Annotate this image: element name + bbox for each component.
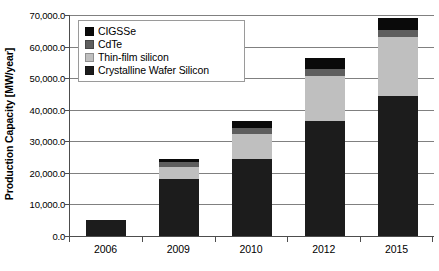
bar-group-2009[interactable] bbox=[159, 159, 199, 236]
x-axis-tick-label-2006: 2006 bbox=[75, 243, 135, 255]
bar-segment[interactable] bbox=[305, 58, 345, 70]
bar-segment[interactable] bbox=[305, 76, 345, 121]
legend-swatch-icon bbox=[85, 53, 94, 62]
legend-swatch-icon bbox=[85, 66, 94, 75]
bar-group-2010[interactable] bbox=[232, 121, 272, 236]
bar-group-2015[interactable] bbox=[378, 18, 418, 236]
x-axis-tick-label-2010: 2010 bbox=[221, 243, 281, 255]
bar-segment[interactable] bbox=[232, 121, 272, 128]
bar-segment[interactable] bbox=[232, 159, 272, 236]
y-axis-tick-labels: 0.010,000.020,000.030,000.040,000.050,00… bbox=[16, 0, 69, 248]
legend-item-label: Thin-film silicon bbox=[98, 51, 169, 64]
x-axis-tickmark bbox=[432, 237, 433, 242]
x-axis-tickmark bbox=[215, 237, 216, 242]
y-axis-tick-label: 40,000.0 bbox=[30, 104, 65, 115]
x-axis-tick-label-2012: 2012 bbox=[294, 243, 354, 255]
bar-segment[interactable] bbox=[86, 220, 126, 236]
legend-item[interactable]: CdTe bbox=[85, 38, 239, 51]
bar-segment[interactable] bbox=[378, 37, 418, 95]
x-axis-tick-label-2009: 2009 bbox=[148, 243, 208, 255]
legend-item-label: CIGSSe bbox=[98, 25, 136, 38]
legend-item[interactable]: Thin-film silicon bbox=[85, 51, 239, 64]
y-axis-tick-label: 20,000.0 bbox=[30, 167, 65, 178]
y-axis-tick-label: 10,000.0 bbox=[30, 199, 65, 210]
y-axis-tick-label: 70,000.0 bbox=[30, 10, 65, 21]
bar-segment[interactable] bbox=[378, 96, 418, 236]
legend-swatch-icon bbox=[85, 27, 94, 36]
bar-segment[interactable] bbox=[159, 167, 199, 180]
legend-item[interactable]: Crystalline Wafer Silicon bbox=[85, 64, 239, 77]
y-axis-tick-label: 60,000.0 bbox=[30, 41, 65, 52]
y-axis-tick-label: 30,000.0 bbox=[30, 136, 65, 147]
stacked-bar-chart: Production Capacity [MW/year] 0.010,000.… bbox=[0, 0, 439, 271]
x-axis-tickmark bbox=[142, 237, 143, 242]
x-axis-tickmark bbox=[287, 237, 288, 242]
legend-item-label: Crystalline Wafer Silicon bbox=[98, 64, 209, 77]
x-axis-tickmark bbox=[69, 237, 70, 242]
bar-segment[interactable] bbox=[159, 179, 199, 236]
y-axis-title-text: Production Capacity [MW/year] bbox=[3, 48, 15, 200]
y-axis-tick-label: 0.0 bbox=[52, 231, 65, 242]
x-axis-tick-labels: 20062009201020122015 bbox=[69, 243, 433, 261]
bar-segment[interactable] bbox=[378, 30, 418, 37]
bar-group-2012[interactable] bbox=[305, 58, 345, 236]
legend-item-label: CdTe bbox=[98, 38, 122, 51]
y-axis-tick-label: 50,000.0 bbox=[30, 73, 65, 84]
bar-segment[interactable] bbox=[232, 134, 272, 159]
x-axis-tick-label-2015: 2015 bbox=[367, 243, 427, 255]
bar-group-2006[interactable] bbox=[86, 220, 126, 236]
x-axis-tickmark bbox=[360, 237, 361, 242]
legend-swatch-icon bbox=[85, 40, 94, 49]
legend-item[interactable]: CIGSSe bbox=[85, 25, 239, 38]
chart-legend: CIGSSeCdTeThin-film siliconCrystalline W… bbox=[78, 20, 245, 82]
bar-segment[interactable] bbox=[378, 18, 418, 30]
bar-segment[interactable] bbox=[305, 121, 345, 236]
